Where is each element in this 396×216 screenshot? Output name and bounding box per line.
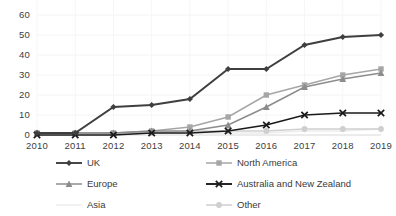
- legend-label: UK: [87, 158, 100, 168]
- x-tick-label: 2014: [170, 141, 210, 151]
- data-point-marker: [225, 114, 230, 119]
- legend-item-0[interactable]: UK: [0, 152, 196, 173]
- x-tick-label: 2017: [285, 141, 325, 151]
- x-tick-label: 2018: [323, 141, 363, 151]
- data-point-marker: [340, 34, 346, 40]
- legend-item-5[interactable]: Other: [196, 195, 390, 216]
- x-tick-label: 2012: [93, 141, 133, 151]
- legend-key-icon-0: [54, 157, 84, 169]
- plot-region: 010203040506070 201020112012201320142015…: [0, 0, 390, 152]
- series-line: [37, 35, 381, 133]
- legend-key-icon-3: [204, 178, 234, 190]
- legend-key-icon-1: [204, 157, 234, 169]
- legend-label: Other: [237, 200, 261, 210]
- data-point-marker: [263, 104, 270, 110]
- data-series-layer: [0, 0, 390, 152]
- legend-label: Europe: [87, 179, 118, 189]
- x-tick-label: 2019: [361, 141, 396, 151]
- legend-key-icon-5: [204, 199, 234, 211]
- legend-item-4[interactable]: Asia: [0, 195, 196, 216]
- x-tick-label: 2010: [17, 141, 57, 151]
- legend-item-1[interactable]: North America: [196, 152, 390, 173]
- legend-marker: [66, 160, 72, 166]
- legend-label: North America: [237, 158, 297, 168]
- legend-key-icon-2: [54, 178, 84, 190]
- x-tick-label: 2016: [246, 141, 286, 151]
- data-point-marker: [263, 128, 269, 134]
- chart-legend: UK North America Europe Australia and Ne…: [0, 152, 390, 216]
- data-point-marker: [378, 126, 384, 132]
- legend-marker: [216, 202, 222, 208]
- data-point-marker: [149, 102, 155, 108]
- legend-key-icon-4: [54, 199, 84, 211]
- data-point-marker: [378, 32, 384, 38]
- data-point-marker: [340, 126, 346, 132]
- legend-label: Asia: [87, 200, 105, 210]
- legend-marker: [216, 160, 221, 165]
- legend-item-3[interactable]: Australia and New Zealand: [196, 173, 390, 194]
- x-tick-label: 2011: [55, 141, 95, 151]
- x-tick-label: 2015: [208, 141, 248, 151]
- x-tick-label: 2013: [132, 141, 172, 151]
- series-uk: [34, 32, 384, 136]
- data-point-marker: [302, 126, 308, 132]
- legend-label: Australia and New Zealand: [237, 179, 351, 189]
- legend-item-2[interactable]: Europe: [0, 173, 196, 194]
- series-australia-and-new-zealand: [34, 110, 384, 138]
- data-point-marker: [264, 92, 269, 97]
